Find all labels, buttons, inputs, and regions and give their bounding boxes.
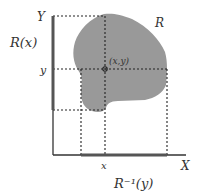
region-label: R	[154, 16, 164, 30]
point-label: (x,y)	[109, 56, 130, 66]
section-x-label: R⁻¹(y)	[113, 176, 153, 191]
y-tick-label: y	[39, 64, 47, 77]
y-axis-label: Y	[37, 10, 46, 24]
x-tick-label: x	[101, 160, 107, 171]
diagram-canvas: R (x,y) Y X y x R(x) R⁻¹(y)	[0, 0, 199, 194]
section-y-label: R(x)	[9, 35, 37, 50]
x-axis-label: X	[180, 159, 190, 173]
